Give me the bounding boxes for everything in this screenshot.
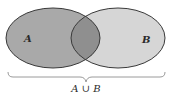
- set-a-label: A: [23, 33, 32, 44]
- union-brace: [8, 72, 165, 82]
- venn-diagram: A B A ∪ B: [0, 0, 171, 94]
- set-b-label: B: [141, 34, 150, 45]
- union-label: A ∪ B: [70, 83, 100, 94]
